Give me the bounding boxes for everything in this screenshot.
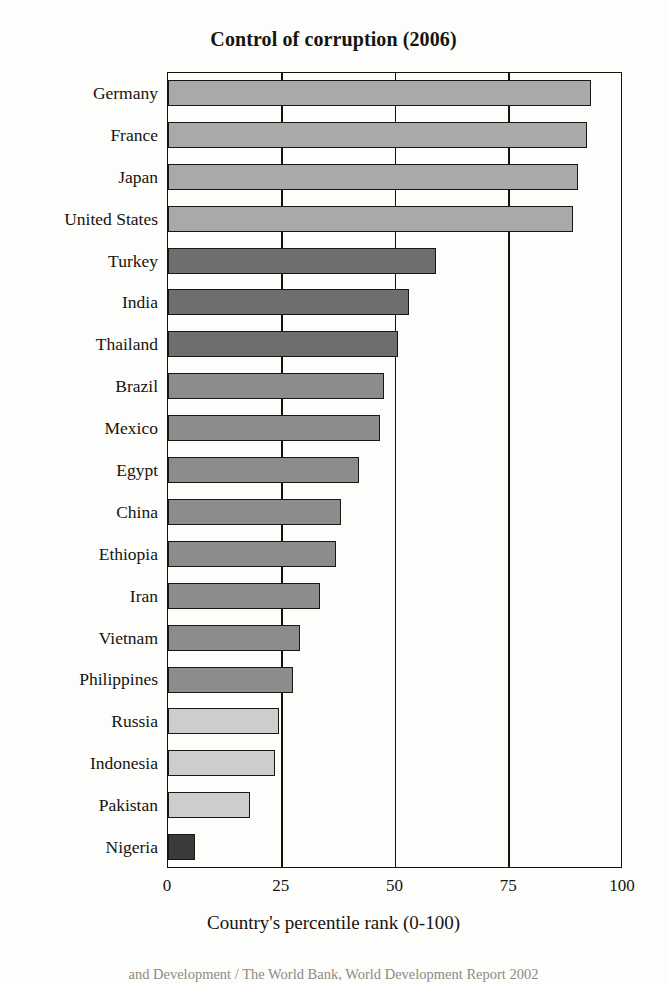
chart-figure: Control of corruption (2006) GermanyFran… — [0, 0, 667, 984]
y-label-france: France — [0, 125, 158, 145]
bar-row — [168, 827, 623, 869]
bar-series — [168, 73, 621, 867]
bar-india — [168, 289, 409, 315]
bar-row — [168, 366, 623, 408]
y-label-iran: Iran — [0, 586, 158, 606]
x-axis-title: Country's percentile rank (0-100) — [0, 912, 667, 934]
y-label-egypt: Egypt — [0, 460, 158, 480]
bar-indonesia — [168, 750, 275, 776]
bar-row — [168, 408, 623, 450]
bar-brazil — [168, 373, 384, 399]
bar-thailand — [168, 331, 398, 357]
y-label-brazil: Brazil — [0, 376, 158, 396]
bar-vietnam — [168, 625, 300, 651]
bar-row — [168, 743, 623, 785]
bar-row — [168, 115, 623, 157]
bar-germany — [168, 80, 591, 106]
chart-title: Control of corruption (2006) — [0, 28, 667, 51]
y-axis-category-labels: GermanyFranceJapanUnited StatesTurkeyInd… — [0, 72, 167, 868]
y-label-china: China — [0, 502, 158, 522]
y-label-germany: Germany — [0, 83, 158, 103]
bar-row — [168, 241, 623, 283]
bar-philippines — [168, 667, 293, 693]
bar-row — [168, 701, 623, 743]
y-label-mexico: Mexico — [0, 418, 158, 438]
y-label-ethiopia: Ethiopia — [0, 544, 158, 564]
bar-japan — [168, 164, 578, 190]
bar-united-states — [168, 206, 573, 232]
y-label-indonesia: Indonesia — [0, 753, 158, 773]
bar-turkey — [168, 248, 436, 274]
y-label-india: India — [0, 292, 158, 312]
bar-nigeria — [168, 834, 195, 860]
bar-row — [168, 73, 623, 115]
x-tick-50: 50 — [386, 876, 403, 896]
bar-mexico — [168, 415, 380, 441]
bar-row — [168, 660, 623, 702]
y-label-pakistan: Pakistan — [0, 795, 158, 815]
bar-row — [168, 618, 623, 660]
x-tick-0: 0 — [163, 876, 172, 896]
x-tick-75: 75 — [500, 876, 517, 896]
y-label-japan: Japan — [0, 167, 158, 187]
y-label-philippines: Philippines — [0, 669, 158, 689]
bar-row — [168, 492, 623, 534]
bar-row — [168, 576, 623, 618]
bar-row — [168, 282, 623, 324]
bar-row — [168, 199, 623, 241]
bar-ethiopia — [168, 541, 336, 567]
bar-china — [168, 499, 341, 525]
x-tick-100: 100 — [609, 876, 635, 896]
bar-row — [168, 157, 623, 199]
bar-france — [168, 122, 587, 148]
source-note: and Development / The World Bank, World … — [0, 966, 667, 983]
y-label-russia: Russia — [0, 711, 158, 731]
bar-iran — [168, 583, 320, 609]
bar-row — [168, 785, 623, 827]
y-label-vietnam: Vietnam — [0, 628, 158, 648]
bar-russia — [168, 708, 279, 734]
plot-area — [167, 72, 622, 868]
bar-row — [168, 534, 623, 576]
y-label-nigeria: Nigeria — [0, 837, 158, 857]
y-label-thailand: Thailand — [0, 334, 158, 354]
y-label-turkey: Turkey — [0, 251, 158, 271]
y-label-united-states: United States — [0, 209, 158, 229]
x-tick-25: 25 — [272, 876, 289, 896]
bar-egypt — [168, 457, 359, 483]
bar-row — [168, 450, 623, 492]
bar-pakistan — [168, 792, 250, 818]
bar-row — [168, 324, 623, 366]
